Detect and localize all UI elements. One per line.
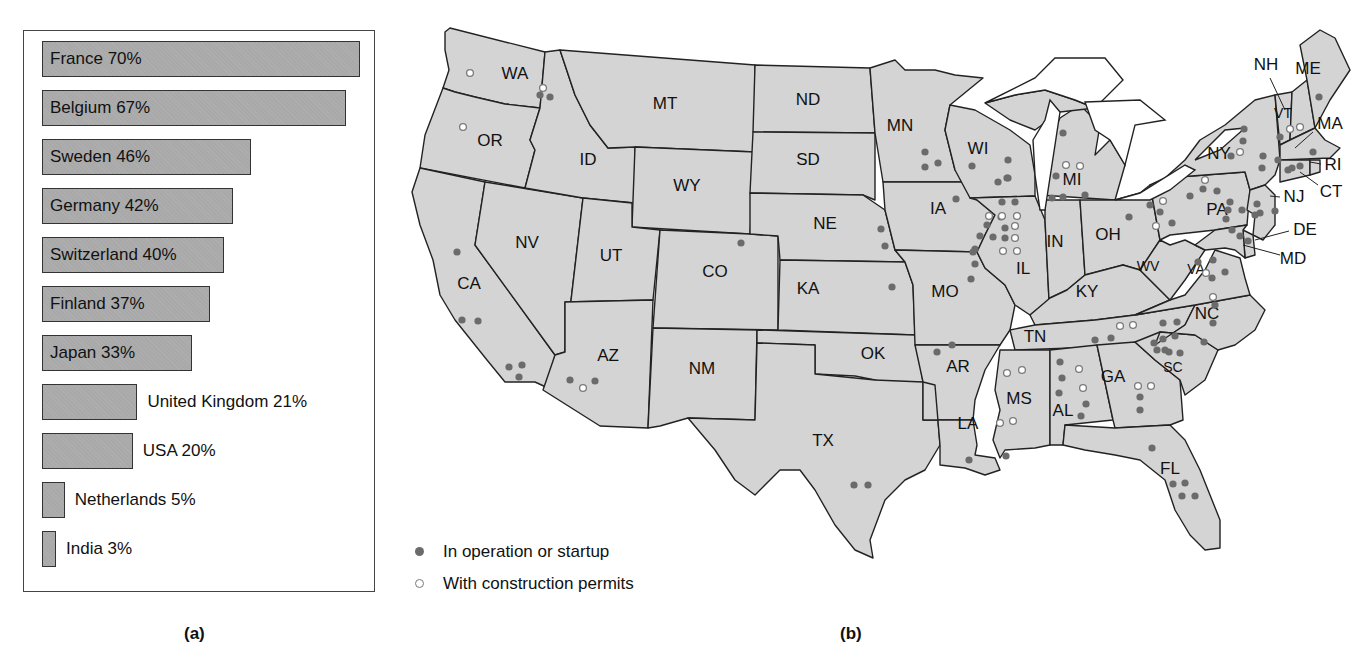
legend-label-operating: In operation or startup: [443, 542, 609, 561]
operating-plant-dot: [881, 242, 888, 249]
operating-plant-dot: [1001, 234, 1008, 241]
bar-label: Sweden 46%: [50, 139, 150, 175]
bar-chart-panel: France 70%Belgium 67%Sweden 46%Germany 4…: [23, 30, 375, 592]
operating-plant-dot: [1208, 274, 1215, 281]
operating-plant-dot: [1226, 198, 1233, 205]
bar-label: Belgium 67%: [50, 90, 150, 126]
operating-plant-dot: [566, 376, 573, 383]
operating-plant-dot: [933, 348, 940, 355]
permit-plant-dot: [1012, 223, 1019, 230]
svg-text:UT: UT: [600, 246, 623, 265]
svg-text:ME: ME: [1295, 59, 1321, 78]
operating-plant-dot: [965, 456, 972, 463]
svg-text:WI: WI: [968, 139, 989, 158]
operating-plant-dot: [1052, 172, 1059, 179]
svg-text:LA: LA: [958, 414, 979, 433]
svg-text:ND: ND: [796, 90, 821, 109]
operating-plant-dot: [1236, 232, 1243, 239]
operating-plant-dot: [983, 221, 990, 228]
svg-text:NV: NV: [515, 233, 539, 252]
svg-text:FL: FL: [1160, 459, 1180, 478]
bar-label: United Kingdom 21%: [147, 384, 307, 420]
permit-plant-dot: [999, 213, 1006, 220]
permit-plant-dot: [1153, 223, 1160, 230]
svg-text:KA: KA: [797, 279, 820, 298]
operating-plant-dot: [1107, 334, 1114, 341]
operating-plant-dot: [1153, 346, 1160, 353]
operating-plant-dot: [850, 481, 857, 488]
operating-plant-dot: [888, 283, 895, 290]
operating-plant-dot: [1209, 256, 1216, 263]
operating-plant-dot: [968, 162, 975, 169]
operating-plant-dot: [1200, 338, 1207, 345]
operating-plant-dot: [1209, 319, 1216, 326]
operating-plant-dot: [1276, 133, 1283, 140]
operating-plant-dot: [1238, 206, 1245, 213]
permit-plant-dot: [1004, 370, 1011, 377]
operating-plant-dot: [1186, 192, 1193, 199]
operating-plant-dot: [1004, 156, 1011, 163]
operating-plant-dot: [1003, 174, 1010, 181]
operating-plant-dot: [1082, 400, 1089, 407]
permit-plant-dot: [1063, 162, 1070, 169]
permit-plant-dot: [580, 385, 587, 392]
svg-text:OR: OR: [477, 131, 503, 150]
svg-text:MA: MA: [1317, 114, 1343, 133]
operating-plant-dot: [1161, 346, 1168, 353]
operating-plant-dot: [1125, 213, 1132, 220]
operating-plant-dot: [989, 233, 996, 240]
operating-plant-dot: [1240, 125, 1247, 132]
operating-plant-dot: [1258, 164, 1265, 171]
svg-text:RI: RI: [1325, 155, 1342, 174]
operating-plant-dot: [1002, 452, 1009, 459]
operating-plant-dot: [1058, 374, 1065, 381]
operating-plant-dot: [1222, 215, 1229, 222]
operating-plant-dot: [969, 248, 976, 255]
svg-text:MS: MS: [1006, 389, 1032, 408]
operating-plant-dot: [1176, 349, 1183, 356]
operating-plant-dot: [1159, 319, 1166, 326]
permit-plant-dot: [1010, 418, 1017, 425]
operating-plant-dot: [1194, 258, 1201, 265]
svg-text:IN: IN: [1047, 232, 1064, 251]
state-fl: [1063, 425, 1220, 550]
operating-plant-dot: [1059, 129, 1066, 136]
svg-text:NJ: NJ: [1284, 187, 1305, 206]
operating-plant-dot: [458, 316, 465, 323]
legend-item-permits: With construction permits: [415, 568, 634, 600]
svg-text:WA: WA: [502, 64, 529, 83]
operating-plant-dot: [967, 275, 974, 282]
operating-plant-dot: [1239, 137, 1246, 144]
permit-plant-dot: [1160, 198, 1167, 205]
operating-plant-dot: [1077, 412, 1084, 419]
operating-plant-dot: [1228, 226, 1235, 233]
operating-plant-dot: [1309, 148, 1316, 155]
operating-plant-dot: [1178, 492, 1185, 499]
svg-text:ID: ID: [580, 150, 597, 169]
operating-plant-dot: [998, 198, 1005, 205]
operating-plant-dot: [1251, 211, 1258, 218]
svg-text:AZ: AZ: [597, 346, 619, 365]
panel-a-caption: (a): [184, 624, 205, 644]
operating-plant-dot: [1091, 336, 1098, 343]
bar-label: USA 20%: [143, 433, 216, 469]
permit-plant-dot: [1014, 213, 1021, 220]
svg-text:OH: OH: [1095, 225, 1121, 244]
hollow-dot-icon: [415, 579, 424, 588]
svg-text:CO: CO: [702, 262, 728, 281]
map-legend: In operation or startup With constructio…: [415, 536, 634, 600]
bar: [42, 531, 56, 567]
permit-plant-dot: [1117, 323, 1124, 330]
svg-text:MO: MO: [931, 282, 958, 301]
operating-plant-dot: [1136, 406, 1143, 413]
permit-plant-dot: [1012, 235, 1019, 242]
permit-plant-dot: [986, 213, 993, 220]
operating-plant-dot: [1055, 389, 1062, 396]
svg-text:NH: NH: [1254, 55, 1279, 74]
svg-text:SD: SD: [796, 150, 820, 169]
operating-plant-dot: [1191, 492, 1198, 499]
svg-text:OK: OK: [861, 344, 886, 363]
permit-plant-dot: [997, 420, 1004, 427]
svg-text:KY: KY: [1076, 282, 1099, 301]
svg-text:AL: AL: [1053, 401, 1074, 420]
